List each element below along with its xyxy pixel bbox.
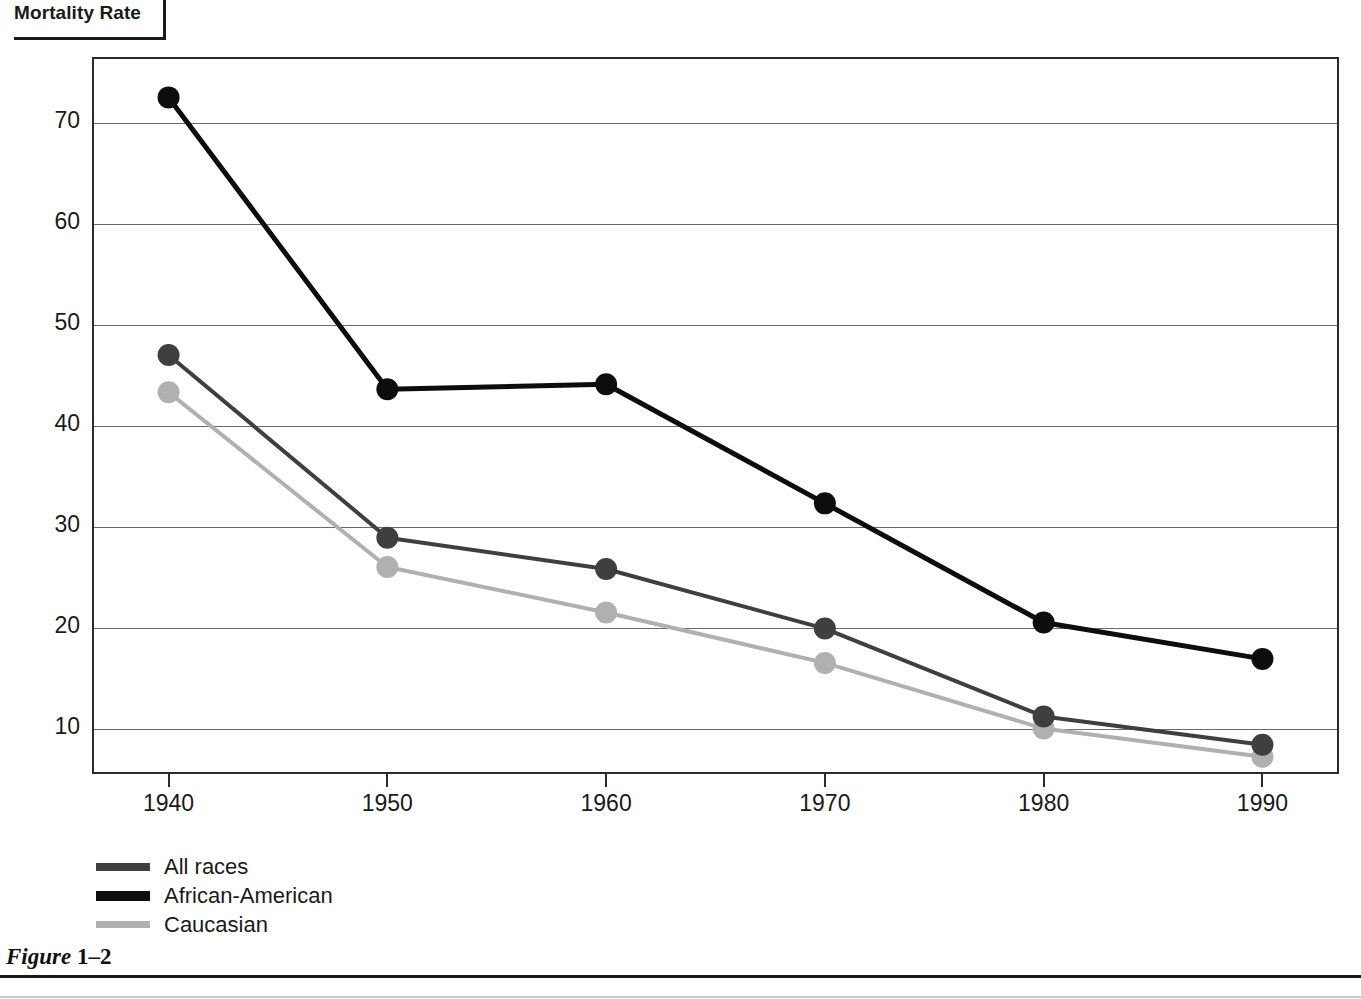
series-all-races: [158, 344, 1274, 756]
data-series-layer: [0, 0, 1361, 830]
data-point-marker: [1033, 705, 1055, 727]
data-point-marker: [1251, 648, 1273, 670]
series-line: [169, 392, 1263, 757]
page-bottom-divider: [0, 996, 1361, 998]
legend-item: African-American: [96, 881, 396, 910]
legend-item-label: Caucasian: [164, 914, 268, 936]
data-point-marker: [595, 558, 617, 580]
data-point-marker: [158, 344, 180, 366]
legend-item-label: African-American: [164, 885, 333, 907]
data-point-marker: [1033, 612, 1055, 634]
data-point-marker: [376, 378, 398, 400]
legend-item: All races: [96, 852, 396, 881]
data-point-marker: [814, 492, 836, 514]
legend-swatch-icon: [96, 863, 150, 871]
chart-container: 10203040506070 194019501960197019801990: [0, 0, 1361, 830]
legend-swatch-icon: [96, 921, 150, 928]
data-point-marker: [814, 618, 836, 640]
figure-caption: Figure 1–2: [6, 944, 111, 970]
series-caucasian: [158, 381, 1274, 768]
data-point-marker: [1251, 734, 1273, 756]
figure-caption-prefix: Figure: [6, 944, 71, 969]
series-african-american: [158, 86, 1274, 669]
figure-caption-number: 1–2: [77, 944, 112, 969]
caption-divider: [0, 975, 1361, 978]
data-point-marker: [376, 556, 398, 578]
series-line: [169, 355, 1263, 745]
data-point-marker: [595, 373, 617, 395]
data-point-marker: [595, 601, 617, 623]
legend-item-label: All races: [164, 856, 248, 878]
legend-item: Caucasian: [96, 910, 396, 939]
series-line: [169, 97, 1263, 658]
data-point-marker: [814, 652, 836, 674]
data-point-marker: [376, 527, 398, 549]
chart-legend: All racesAfrican-AmericanCaucasian: [96, 852, 396, 939]
data-point-marker: [158, 381, 180, 403]
legend-swatch-icon: [96, 891, 150, 901]
data-point-marker: [158, 86, 180, 108]
